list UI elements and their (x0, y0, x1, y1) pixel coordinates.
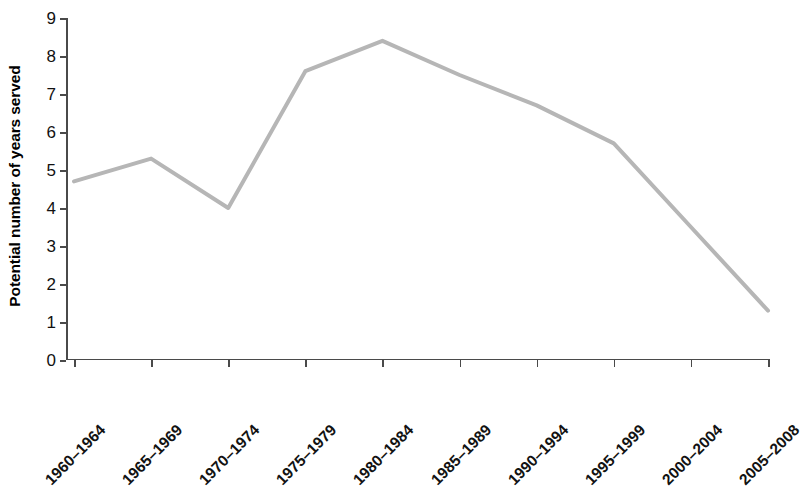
y-tick-label: 6 (30, 124, 56, 141)
x-tick-label: 2005–2008 (790, 366, 804, 434)
x-tick-label: 1970–1974 (251, 366, 319, 434)
x-tick-label-text: 2005–2008 (736, 421, 804, 489)
plot-area (66, 18, 770, 360)
data-series-line (66, 18, 770, 360)
x-tick-label-text: 1975–1979 (273, 421, 341, 489)
y-tick-label: 5 (30, 162, 56, 179)
x-tick-label: 1990–1994 (559, 366, 627, 434)
y-tick-label: 0 (30, 352, 56, 369)
y-tick-label: 3 (30, 238, 56, 255)
y-tick-label: 8 (30, 48, 56, 65)
x-tick-label-text: 1980–1984 (350, 421, 418, 489)
y-axis-title: Potential number of years served (0, 0, 30, 372)
x-tick-label-text: 1990–1994 (504, 421, 572, 489)
y-tick-label: 4 (30, 200, 56, 217)
y-axis-tick-labels: 0123456789 (28, 0, 56, 451)
y-axis-title-text: Potential number of years served (6, 65, 24, 306)
x-tick-label: 1965–1969 (174, 366, 242, 434)
x-tick-label: 1960–1964 (96, 366, 164, 434)
x-tick-label-text: 1970–1974 (196, 421, 264, 489)
y-tick-label: 9 (30, 10, 56, 27)
x-tick-label: 1995–1999 (636, 366, 704, 434)
x-tick-label: 1985–1989 (482, 366, 550, 434)
x-tick-label: 2000–2004 (713, 366, 781, 434)
x-tick-label-text: 1995–1999 (581, 421, 649, 489)
series-polyline (74, 41, 768, 311)
x-tick-label: 1980–1984 (405, 366, 473, 434)
x-tick-label-text: 2000–2004 (658, 421, 726, 489)
y-tick-label: 2 (30, 276, 56, 293)
y-tick-label: 7 (30, 86, 56, 103)
x-tick-label-text: 1985–1989 (427, 421, 495, 489)
x-tick-label: 1975–1979 (328, 366, 396, 434)
y-tick-label: 1 (30, 314, 56, 331)
x-tick-label-text: 1965–1969 (119, 421, 187, 489)
x-axis-tick-labels: 1960–19641965–19691970–19741975–19791980… (66, 362, 776, 451)
